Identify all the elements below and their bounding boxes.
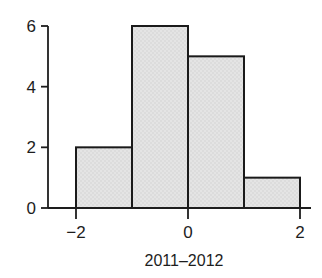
x-axis-title: 2011–2012 xyxy=(145,252,224,269)
histogram-plot: 6 4 2 0 −2 0 2 2011–2012 xyxy=(0,0,322,278)
x-tick-label-2: 2 xyxy=(295,223,304,242)
y-tick-label-4: 4 xyxy=(27,78,36,97)
bar-bin-3 xyxy=(188,56,244,208)
y-tick-label-6: 6 xyxy=(27,17,36,36)
histogram-figure: 6 4 2 0 −2 0 2 2011–2012 xyxy=(0,0,322,278)
x-tick-label-minus2: −2 xyxy=(66,223,85,242)
y-tick-label-0: 0 xyxy=(27,199,36,218)
y-tick-label-2: 2 xyxy=(27,138,36,157)
bar-bin-2 xyxy=(132,26,188,208)
x-tick-label-0: 0 xyxy=(183,223,192,242)
bar-bin-1 xyxy=(76,147,132,208)
bar-bin-4 xyxy=(244,178,300,208)
